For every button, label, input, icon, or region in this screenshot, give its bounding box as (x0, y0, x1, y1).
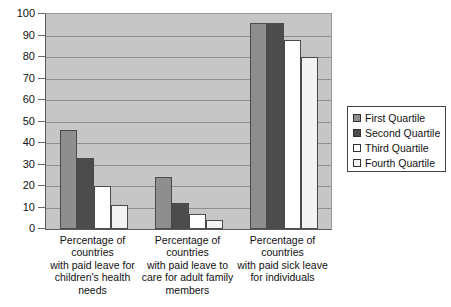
y-axis: 0102030405060708090100 (0, 6, 45, 230)
bar (250, 23, 267, 229)
y-axis-tick-label: 50 (23, 116, 35, 127)
y-axis-tick-mark (38, 142, 45, 143)
y-axis-tick-mark (38, 56, 45, 57)
legend-item-label: Fourth Quartile (365, 158, 435, 169)
x-axis-label-line: Percentage of (235, 234, 330, 246)
x-axis-category-label: Percentage ofcountrieswith paid leave fo… (45, 234, 140, 296)
x-axis-category-label: Percentage ofcountrieswith paid sick lea… (235, 234, 330, 284)
bar (111, 205, 128, 229)
x-axis-label-line: needs (45, 284, 140, 296)
x-axis-label-line: care for adult family (140, 271, 235, 283)
y-axis-tick-mark (38, 228, 45, 229)
x-axis-label-line: with paid sick leave (235, 259, 330, 271)
bar-group (60, 14, 128, 229)
y-axis-tick-mark (38, 121, 45, 122)
bar-group (155, 14, 223, 229)
x-axis-label-line: children's health (45, 271, 140, 283)
y-axis-tick-mark (38, 35, 45, 36)
legend-swatch-icon (353, 159, 361, 167)
x-axis-labels: Percentage ofcountrieswith paid leave fo… (45, 234, 330, 307)
x-axis-label-line: with paid leave for (45, 259, 140, 271)
bar (172, 203, 189, 229)
y-axis-tick-label: 40 (23, 137, 35, 148)
y-axis-tick-label: 80 (23, 51, 35, 62)
x-axis-label-line: members (140, 284, 235, 296)
bar (60, 130, 77, 229)
bar (94, 186, 111, 229)
legend-swatch-icon (353, 144, 361, 152)
x-axis-label-line: with paid leave to (140, 259, 235, 271)
x-axis-label-line: countries (140, 246, 235, 258)
bar (77, 158, 94, 229)
bar-chart: 0102030405060708090100 Percentage ofcoun… (0, 0, 451, 307)
y-axis-tick-label: 60 (23, 94, 35, 105)
legend-item[interactable]: Fourth Quartile (353, 156, 445, 170)
y-axis-tick-mark (38, 207, 45, 208)
bars-layer (46, 14, 331, 229)
y-axis-tick-mark (38, 78, 45, 79)
legend-swatch-icon (353, 129, 361, 137)
y-axis-tick-label: 90 (23, 30, 35, 41)
legend: First QuartileSecond QuartileThird Quart… (347, 106, 446, 172)
legend-item-label: Third Quartile (365, 143, 429, 154)
x-axis-label-line: countries (235, 246, 330, 258)
bar (206, 220, 223, 229)
y-axis-tick-label: 10 (23, 202, 35, 213)
y-axis-tick-label: 0 (29, 223, 35, 234)
x-axis-label-line: countries (45, 246, 140, 258)
legend-item[interactable]: Second Quartile (353, 126, 445, 140)
x-axis-label-line: for individuals (235, 271, 330, 283)
y-axis-tick-label: 20 (23, 180, 35, 191)
y-axis-tick-label: 30 (23, 159, 35, 170)
legend-item[interactable]: Third Quartile (353, 141, 445, 155)
y-axis-tick-mark (38, 13, 45, 14)
bar (301, 57, 318, 229)
legend-item-label: First Quartile (365, 113, 425, 124)
x-axis-label-line: Percentage of (45, 234, 140, 246)
y-axis-tick-mark (38, 164, 45, 165)
plot-area (45, 13, 332, 230)
y-axis-tick-label: 100 (17, 8, 35, 19)
y-axis-tick-mark (38, 99, 45, 100)
y-axis-tick-label: 70 (23, 73, 35, 84)
legend-swatch-icon (353, 114, 361, 122)
bar (155, 177, 172, 229)
legend-item[interactable]: First Quartile (353, 111, 445, 125)
x-axis-label-line: Percentage of (140, 234, 235, 246)
y-axis-tick-mark (38, 185, 45, 186)
x-axis-category-label: Percentage ofcountrieswith paid leave to… (140, 234, 235, 296)
bar (267, 23, 284, 229)
bar (284, 40, 301, 229)
bar-group (250, 14, 318, 229)
legend-item-label: Second Quartile (365, 128, 440, 139)
bar (189, 214, 206, 229)
